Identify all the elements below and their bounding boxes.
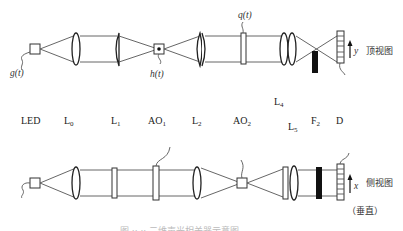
label-l4: L4 (274, 96, 284, 109)
ray (201, 183, 241, 198)
arrow-head-icon (348, 174, 353, 180)
detector-wire-side (340, 153, 349, 164)
led-wire-side (22, 183, 30, 198)
ray (40, 49, 76, 63)
orientation-note: （垂直） (347, 205, 383, 216)
arrow-head-icon (348, 40, 353, 46)
label-l0: L0 (64, 115, 74, 128)
top-view: g(t) h(t) q(t) (10, 10, 393, 80)
ao2-wire-side (241, 160, 243, 178)
ao2-wire-top (242, 22, 243, 33)
ao2-cell-side (237, 178, 247, 188)
ray (164, 36, 200, 49)
ao2-cell-top (241, 33, 246, 64)
x-axis-label: x (353, 181, 359, 191)
beam-dot (157, 47, 161, 51)
label-d: D (336, 115, 343, 126)
label-f2: F2 (311, 115, 321, 128)
label-ao1: AO1 (148, 115, 166, 128)
label-ao2: AO2 (233, 115, 251, 128)
detector-wire-top (340, 63, 345, 75)
ray (40, 168, 76, 183)
ao1-wire-top (158, 54, 161, 64)
ray (119, 36, 158, 49)
filter-f2-side (316, 167, 322, 199)
label-l5: L5 (288, 121, 298, 134)
lens-l1-top (116, 33, 119, 66)
ao1-cell-side (153, 166, 159, 200)
ray (201, 168, 241, 183)
ao1-wire-side (156, 147, 170, 166)
led-source-side (30, 178, 40, 188)
signal-q-label: q(t) (238, 10, 252, 21)
label-l2: L2 (192, 115, 202, 128)
top-view-label: 顶视图 (366, 45, 393, 56)
side-view: x 侧视图 （垂直） (22, 147, 393, 216)
component-labels: LED L0 L1 AO1 L2 AO2 L4 L5 F2 D (21, 96, 343, 134)
side-view-label: 侧视图 (366, 177, 393, 188)
lens-l2-side (193, 167, 201, 199)
ray (40, 35, 76, 49)
led-source-top (30, 44, 40, 54)
ray (164, 49, 200, 62)
lens-l4-side (283, 167, 288, 199)
lens-l5-top (288, 33, 296, 65)
figure-caption: 图 ·· ·· 二维声光相关器示意图 (120, 225, 239, 231)
ray (40, 183, 76, 198)
label-l1: L1 (111, 115, 121, 128)
optical-diagram: g(t) h(t) q(t) (0, 0, 403, 231)
filter-f2-top (312, 51, 318, 73)
lens-l1-side (112, 168, 117, 198)
lens-l4-top (280, 33, 288, 65)
signal-h-label: h(t) (150, 69, 164, 80)
lens-l0-side (72, 167, 80, 199)
ray (247, 183, 283, 197)
lens-l5-side (290, 166, 298, 200)
label-led: LED (21, 115, 40, 126)
ray (119, 49, 158, 62)
signal-g-label: g(t) (10, 68, 24, 79)
lens-l2-top-curve (202, 33, 205, 66)
ray (247, 169, 283, 183)
lens-l0-top (72, 33, 80, 65)
y-axis-label: y (353, 46, 359, 56)
